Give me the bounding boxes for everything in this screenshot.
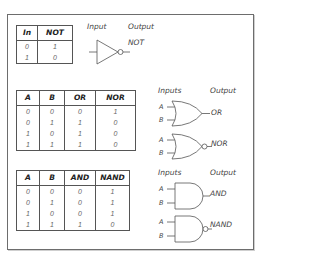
and-output-header: Output [210, 168, 236, 177]
or-input-b-label: B [159, 116, 163, 124]
and-inputs-header: Inputs [158, 168, 181, 177]
and-output-name: AND [210, 189, 227, 198]
and-input-a-label: A [159, 185, 163, 193]
and-gate-icon [167, 183, 210, 209]
nor-input-a-label: A [159, 136, 163, 144]
or-gate-icon [167, 101, 210, 126]
or-output-header: Output [210, 86, 236, 95]
not-input-label: Input [87, 22, 106, 31]
nor-input-b-label: B [159, 149, 163, 157]
and-input-b-label: B [159, 199, 163, 207]
nand-output-name: NAND [210, 220, 232, 229]
nor-output-name: NOR [211, 139, 228, 148]
nand-input-a-label: A [159, 218, 163, 226]
nand-input-b-label: B [159, 232, 163, 240]
not-gate-icon [89, 40, 130, 64]
not-output-label: Output [128, 22, 154, 31]
or-inputs-header: Inputs [158, 86, 181, 95]
or-output-name: OR [211, 108, 222, 117]
or-input-a-label: A [159, 103, 163, 111]
nand-gate-icon [167, 216, 212, 242]
nor-gate-icon [167, 134, 212, 159]
not-output-name: NOT [128, 38, 144, 47]
